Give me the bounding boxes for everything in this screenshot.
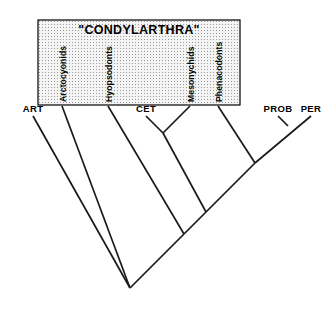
tip-label-prob: PROB (263, 103, 292, 114)
branch-hyopsodonts (108, 106, 184, 234)
cladogram-figure: "CONDYLARTHRA" Arctocyonids Hyopsodonts … (0, 0, 331, 324)
branch-node4-stem (206, 163, 255, 212)
tip-label-cet: CET (136, 103, 156, 114)
inbox-label-mesonychids: Mesonychids (186, 46, 196, 102)
branch-arctocyonids (62, 106, 130, 288)
branch-node2-stem (130, 234, 184, 288)
branch-phenacodonts (218, 106, 255, 163)
inbox-label-hyopsodonts: Hyopsodonts (104, 46, 114, 102)
cladogram-branches (33, 106, 311, 288)
branch-art (33, 116, 130, 288)
cladogram-canvas: "CONDYLARTHRA" Arctocyonids Hyopsodonts … (0, 0, 331, 324)
inbox-label-phenacodonts: Phenacodonts (214, 41, 224, 102)
tip-label-art: ART (23, 103, 44, 114)
branch-mesonychids (163, 106, 190, 133)
group-box-title: "CONDYLARTHRA" (78, 23, 200, 37)
branch-cet-mesonychids-stem (163, 133, 206, 212)
branch-node3-stem (184, 212, 206, 234)
branch-cet (146, 116, 163, 133)
tip-label-per: PER (301, 103, 322, 114)
branch-prob (278, 116, 288, 126)
condylarthra-group-box: "CONDYLARTHRA" (38, 20, 240, 105)
inbox-label-arctocyonids: Arctocyonids (58, 46, 68, 102)
branch-per (255, 116, 311, 163)
